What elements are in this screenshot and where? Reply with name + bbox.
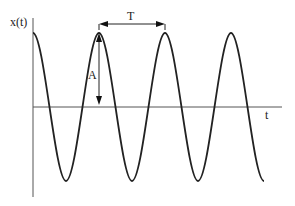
period-label: T	[127, 10, 134, 22]
amplitude-arrowhead-bottom	[96, 96, 102, 105]
signal-diagram	[0, 0, 295, 206]
period-arrowhead-right	[156, 21, 165, 27]
amplitude-label: A	[88, 69, 97, 81]
period-arrowhead-left	[99, 21, 108, 27]
x-axis-label: t	[265, 109, 268, 121]
y-axis-label: x(t)	[10, 16, 27, 28]
